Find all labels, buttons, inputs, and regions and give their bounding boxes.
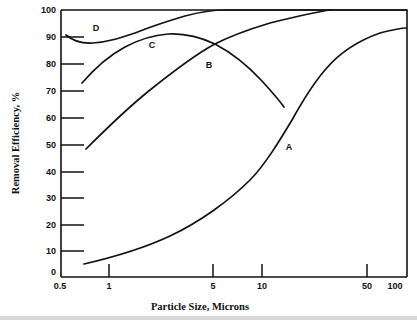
y-tick-label: 60 — [46, 113, 56, 123]
x-tick-label: 10 — [257, 281, 267, 291]
x-tick-marks — [109, 264, 367, 277]
curve-label-d: D — [93, 23, 100, 33]
removal-efficiency-chart: 100 90 80 70 60 50 40 30 20 10 0 0.5 1 5… — [0, 0, 417, 320]
x-axis-title: Particle Size, Microns — [151, 301, 249, 312]
curve-c — [82, 34, 284, 107]
curve-b — [86, 10, 330, 149]
x-tick-label: 5 — [210, 281, 215, 291]
y-tick-label: 10 — [46, 246, 56, 256]
y-tick-label: 40 — [46, 167, 56, 177]
y-tick-label: 0 — [51, 267, 56, 277]
y-tick-label: 90 — [46, 32, 56, 42]
y-tick-label: 70 — [46, 86, 56, 96]
y-tick-label: 80 — [46, 59, 56, 69]
y-tick-label: 30 — [46, 193, 56, 203]
x-tick-labels: 0.5 1 5 10 50 100 — [54, 281, 403, 291]
x-tick-label: 0.5 — [54, 281, 67, 291]
curve-label-a: A — [286, 142, 293, 152]
y-tick-labels: 100 90 80 70 60 50 40 30 20 10 0 — [41, 5, 56, 277]
x-tick-label: 1 — [106, 281, 111, 291]
page-edge-strip — [0, 316, 417, 320]
curve-label-b: B — [206, 60, 213, 70]
y-tick-label: 100 — [41, 5, 56, 15]
y-tick-label: 50 — [46, 140, 56, 150]
y-tick-label: 20 — [46, 220, 56, 230]
y-tick-marks — [61, 37, 84, 251]
curve-d — [66, 10, 407, 43]
x-tick-label: 50 — [362, 281, 372, 291]
x-tick-label: 100 — [387, 281, 402, 291]
curve-a — [84, 28, 406, 264]
y-axis-title: Removal Efficiency, % — [10, 92, 21, 194]
curve-label-c: C — [149, 40, 156, 50]
